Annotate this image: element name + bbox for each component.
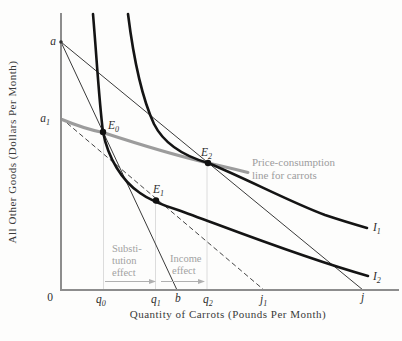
point-e2 xyxy=(205,160,211,166)
income-effect-label-line2: effect xyxy=(172,265,196,276)
curve-label-i2: I2 xyxy=(372,270,381,285)
substitution-effect-label-line3: effect xyxy=(112,267,136,278)
origin-label: 0 xyxy=(47,291,53,303)
price-consumption-label-line2: line for carrots xyxy=(252,169,317,181)
x-axis-label-q2: q2 xyxy=(203,293,213,308)
y-axis-title: All Other Goods (Dollars Per Month) xyxy=(6,61,19,244)
x-axis-label-b: b xyxy=(175,292,181,304)
y-axis-label-a1: a1 xyxy=(40,112,50,127)
x-axis-label-q1: q1 xyxy=(151,293,161,308)
point-label-e1: E1 xyxy=(152,183,164,198)
x-axis-label-q0: q0 xyxy=(96,293,106,308)
substitution-effect-label-line2: tution xyxy=(112,255,137,266)
x-axis-title: Quantity of Carrots (Pounds Per Month) xyxy=(130,308,327,321)
price-consumption-label-line1: Price-consumption xyxy=(252,156,336,168)
point-label-e0: E0 xyxy=(107,119,119,134)
income-effect-label-line1: Income xyxy=(170,253,202,264)
curve-label-i1: I1 xyxy=(372,221,381,236)
point-e1 xyxy=(153,197,159,203)
figure-canvas: a a1 0 q0 q1 b q2 j1 j E0 E1 E2 I1 I2 Su… xyxy=(0,0,402,341)
point-e0 xyxy=(100,129,106,135)
y-axis-label-a: a xyxy=(50,35,56,47)
income-effect-arrowhead xyxy=(198,279,205,284)
point-a-marker xyxy=(59,40,63,44)
substitution-effect-arrowhead xyxy=(149,279,156,284)
point-label-e2: E2 xyxy=(200,146,212,161)
indifference-curve-figure: a a1 0 q0 q1 b q2 j1 j E0 E1 E2 I1 I2 Su… xyxy=(0,0,402,341)
x-axis-label-j1: j1 xyxy=(258,293,267,308)
substitution-effect-label-line1: Substi- xyxy=(112,243,142,254)
x-axis-label-j: j xyxy=(359,291,364,304)
